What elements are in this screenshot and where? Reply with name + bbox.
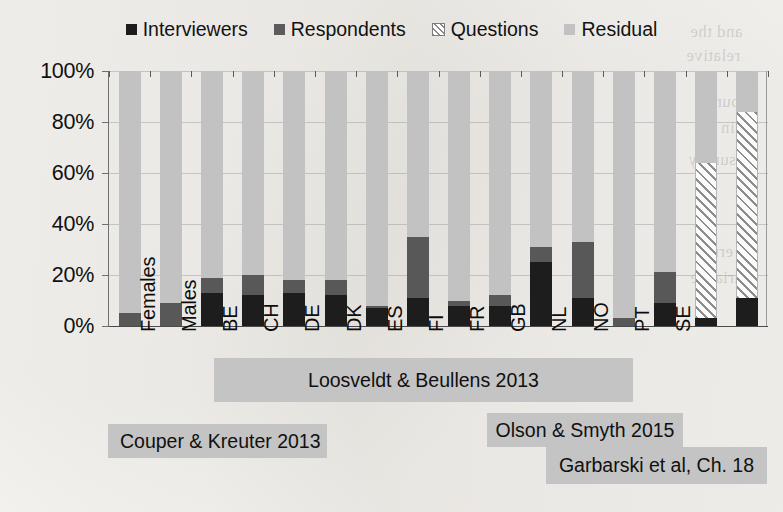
bar-segment-questions [736,112,758,298]
bar-segment-questions [695,163,717,319]
group-band-couper-kreuter: Couper & Kreuter 2013 [108,424,327,458]
x-axis-category-label: DK [343,305,366,332]
x-axis-category-label: DE [301,305,324,332]
legend-item-residual: Residual [564,18,657,41]
y-axis-tick-label: 40% [52,212,94,237]
x-axis-tick [191,71,192,77]
bar-segment-residual [242,71,264,275]
group-band-olson-smyth: Olson & Smyth 2015 [487,413,683,447]
group-band-loosveldt-beullens: Loosveldt & Beullens 2013 [214,358,633,402]
x-axis-category-label: FR [466,306,489,332]
bar-segment-residual [489,71,511,295]
legend-item-questions: Questions [432,18,539,41]
bar-column[interactable] [613,71,635,326]
group-band-label: Couper & Kreuter 2013 [120,430,321,453]
bar-column[interactable] [695,71,717,326]
y-axis-labels: 100% 80% 60% 40% 20% 0% [0,71,104,326]
bar-segment-residual [160,71,182,303]
x-axis-tick [233,71,234,77]
bar-segment-residual [572,71,594,242]
x-axis-category-label: PT [631,307,654,332]
bar-column[interactable] [366,71,388,326]
y-axis-tick-label: 100% [40,59,94,84]
x-axis-category-label: Females [137,257,160,332]
x-axis-tick [603,71,604,77]
group-band-label: Garbarski et al, Ch. 18 [559,454,754,477]
y-axis-tick [102,173,109,174]
bar-segment-respondents [654,272,676,303]
bar-column[interactable] [572,71,594,326]
legend-swatch-icon [274,24,285,35]
bar-segment-respondents [530,247,552,262]
bar-segment-respondents [407,237,429,298]
bar-segment-residual [448,71,470,301]
y-axis-tick-label: 0% [64,314,94,339]
legend-label: Interviewers [143,18,248,41]
bar-column[interactable] [407,71,429,326]
x-axis-category-label: GB [507,304,530,333]
chart-legend: Interviewers Respondents Questions Resid… [0,18,783,41]
bar-column[interactable] [283,71,305,326]
bar-column[interactable] [654,71,676,326]
x-axis-category-label: FI [425,315,448,332]
legend-swatch-icon [126,24,137,35]
x-axis-category-label: Males [178,280,201,332]
bar-column[interactable] [325,71,347,326]
y-axis-tick [102,122,109,123]
bar-segment-respondents [242,275,264,295]
bar-column[interactable] [489,71,511,326]
bar-segment-residual [613,71,635,318]
bar-column[interactable] [530,71,552,326]
bar-segment-respondents [201,278,223,293]
x-axis-tick [274,71,275,77]
legend-swatch-icon [564,24,575,35]
x-axis-tick [644,71,645,77]
x-axis-tick [562,71,563,77]
bar-segment-respondents [572,242,594,298]
plot-area [108,71,768,327]
legend-label: Respondents [291,18,406,41]
bar-column[interactable] [201,71,223,326]
group-band-label: Loosveldt & Beullens 2013 [308,369,539,392]
x-axis-tick [439,71,440,77]
bar-segment-interviewers [695,318,717,326]
x-axis-tick [686,71,687,77]
bar-segment-residual [201,71,223,278]
x-axis-tick [480,71,481,77]
bar-segment-interviewers [736,298,758,326]
x-axis-tick [521,71,522,77]
bar-segment-respondents [283,280,305,293]
y-axis-tick [102,71,109,72]
bar-segment-respondents [325,280,347,295]
x-axis-tick [109,71,110,77]
x-axis-category-label: NO [590,302,613,332]
bar-segment-residual [283,71,305,280]
bar-column[interactable] [448,71,470,326]
x-axis-category-label: BE [219,306,242,332]
x-axis-tick [150,71,151,77]
bar-column[interactable] [736,71,758,326]
legend-item-interviewers: Interviewers [126,18,248,41]
y-axis-tick [102,275,109,276]
x-axis-tick [356,71,357,77]
x-axis-tick [397,71,398,77]
group-band-garbarski: Garbarski et al, Ch. 18 [546,447,767,484]
stacked-bar-chart: Interviewers Respondents Questions Resid… [0,0,783,512]
legend-swatch-icon [432,23,445,36]
y-axis-tick [102,224,109,225]
x-axis-tick [768,71,769,77]
legend-label: Questions [451,18,539,41]
legend-label: Residual [581,18,657,41]
bar-segment-residual [695,71,717,163]
bar-segment-residual [366,71,388,306]
x-axis-category-label: CH [260,304,283,333]
x-axis-tick [727,71,728,77]
bar-column[interactable] [242,71,264,326]
group-band-label: Olson & Smyth 2015 [496,419,675,442]
x-axis-category-label: SE [672,306,695,332]
y-axis-tick-label: 60% [52,161,94,186]
x-axis-tick [315,71,316,77]
bar-segment-residual [736,71,758,112]
bar-segment-residual [654,71,676,272]
legend-item-respondents: Respondents [274,18,406,41]
